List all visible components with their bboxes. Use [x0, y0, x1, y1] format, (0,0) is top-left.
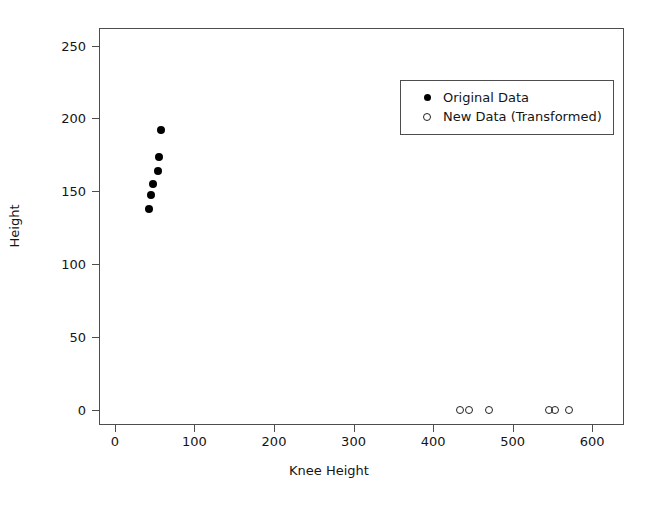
y-tick-mark — [92, 264, 99, 265]
y-tick-label: 150 — [61, 184, 86, 199]
y-tick-mark — [92, 118, 99, 119]
x-tick-label: 200 — [262, 434, 287, 449]
x-tick-mark — [592, 425, 593, 432]
open-circle-icon — [411, 113, 443, 121]
x-axis-label: Knee Height — [0, 463, 658, 478]
data-point — [155, 153, 163, 161]
x-tick-label: 500 — [500, 434, 525, 449]
y-tick-mark — [92, 46, 99, 47]
data-point — [145, 205, 153, 213]
y-tick-mark — [92, 337, 99, 338]
y-tick-mark — [92, 191, 99, 192]
legend: Original DataNew Data (Transformed) — [400, 80, 614, 135]
y-tick-label: 100 — [61, 257, 86, 272]
y-tick-mark — [92, 410, 99, 411]
data-point — [465, 406, 473, 414]
filled-circle-icon — [411, 94, 443, 101]
x-tick-mark — [194, 425, 195, 432]
y-axis-label: Height — [7, 205, 22, 248]
data-point — [456, 406, 464, 414]
data-point — [149, 180, 157, 188]
legend-marker — [423, 113, 431, 121]
x-tick-label: 400 — [421, 434, 446, 449]
x-tick-label: 600 — [580, 434, 605, 449]
data-point — [565, 406, 573, 414]
x-tick-mark — [513, 425, 514, 432]
x-tick-mark — [274, 425, 275, 432]
data-point — [157, 126, 165, 134]
legend-entry: Original Data — [411, 88, 603, 107]
data-point — [485, 406, 493, 414]
data-point — [154, 167, 162, 175]
y-tick-label: 50 — [69, 330, 86, 345]
scatter-plot-figure: 0100200300400500600 050100150200250 Knee… — [0, 0, 658, 505]
y-tick-label: 0 — [78, 403, 86, 418]
y-tick-label: 250 — [61, 38, 86, 53]
data-point — [147, 191, 155, 199]
x-tick-label: 300 — [341, 434, 366, 449]
legend-label: Original Data — [443, 90, 529, 105]
x-tick-label: 100 — [182, 434, 207, 449]
x-tick-label: 0 — [111, 434, 119, 449]
x-tick-mark — [115, 425, 116, 432]
x-tick-mark — [354, 425, 355, 432]
legend-label: New Data (Transformed) — [443, 109, 602, 124]
legend-entry: New Data (Transformed) — [411, 107, 603, 126]
x-tick-mark — [433, 425, 434, 432]
legend-marker — [424, 94, 431, 101]
data-point — [551, 406, 559, 414]
y-tick-label: 200 — [61, 111, 86, 126]
